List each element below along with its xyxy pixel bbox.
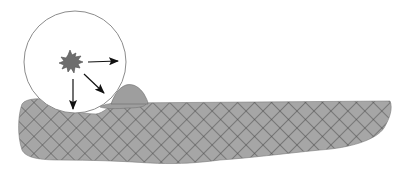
diagram-svg [0, 0, 403, 177]
diagram-canvas [0, 0, 403, 177]
